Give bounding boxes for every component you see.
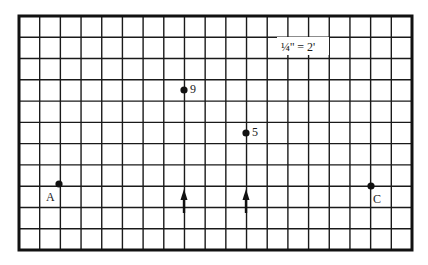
grid-diagram: ¼'' = 2' A95C xyxy=(0,0,428,265)
point-marker xyxy=(180,86,187,93)
point-label: A xyxy=(46,190,55,204)
point-label: 9 xyxy=(190,82,196,96)
point-label: C xyxy=(373,192,381,206)
grid-lines xyxy=(19,16,412,250)
arrows xyxy=(181,189,250,213)
arrow-up-icon xyxy=(243,189,250,213)
point-5: 5 xyxy=(242,125,258,139)
grid-frame xyxy=(19,16,412,250)
point-9: 9 xyxy=(180,82,196,96)
point-label: 5 xyxy=(252,125,258,139)
point-marker xyxy=(242,129,249,136)
point-marker xyxy=(367,182,374,189)
point-marker xyxy=(55,180,62,187)
arrow-up-icon xyxy=(181,189,188,213)
scale-label: ¼'' = 2' xyxy=(281,40,315,54)
scale-label-box: ¼'' = 2' xyxy=(277,37,329,55)
